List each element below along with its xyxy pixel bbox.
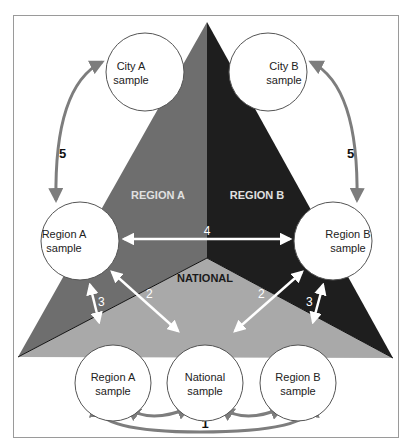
svg-text:sample: sample xyxy=(46,242,81,254)
edge-label-2-left: 2 xyxy=(146,287,153,301)
svg-text:sample: sample xyxy=(280,385,315,397)
edge-label-5-right: 5 xyxy=(347,146,354,161)
sampling-comparison-diagram: REGION A REGION B NATIONAL 5 5 4 2 2 3 3… xyxy=(0,0,413,448)
svg-text:Region A: Region A xyxy=(42,228,87,240)
svg-text:sample: sample xyxy=(330,242,365,254)
svg-text:sample: sample xyxy=(95,385,130,397)
edge-label-4: 4 xyxy=(204,224,211,238)
svg-text:Region B: Region B xyxy=(325,228,370,240)
node-city-b: City B sample xyxy=(229,33,307,111)
svg-text:Region A: Region A xyxy=(91,371,136,383)
edge-label-3-right: 3 xyxy=(306,295,313,309)
edge-label-5-left: 5 xyxy=(59,146,66,161)
national-label: NATIONAL xyxy=(177,272,233,284)
node-region-b-upper: Region B sample xyxy=(294,202,372,280)
node-city-a: City A sample xyxy=(106,33,184,111)
svg-text:National: National xyxy=(185,371,225,383)
svg-text:sample: sample xyxy=(187,385,222,397)
svg-text:sample: sample xyxy=(113,74,148,86)
svg-text:sample: sample xyxy=(266,74,301,86)
node-region-a-lower: Region A sample xyxy=(75,345,151,421)
region-a-label: REGION A xyxy=(131,189,185,201)
node-region-a-upper: Region A sample xyxy=(41,202,119,280)
svg-text:Region B: Region B xyxy=(275,371,320,383)
region-b-label: REGION B xyxy=(230,189,284,201)
edge-label-2-right: 2 xyxy=(258,287,265,301)
svg-text:City B: City B xyxy=(269,60,298,72)
node-region-b-lower: Region B sample xyxy=(260,345,336,421)
edge-label-3-left: 3 xyxy=(98,295,105,309)
node-national-lower: National sample xyxy=(167,345,243,421)
svg-text:City A: City A xyxy=(117,60,146,72)
